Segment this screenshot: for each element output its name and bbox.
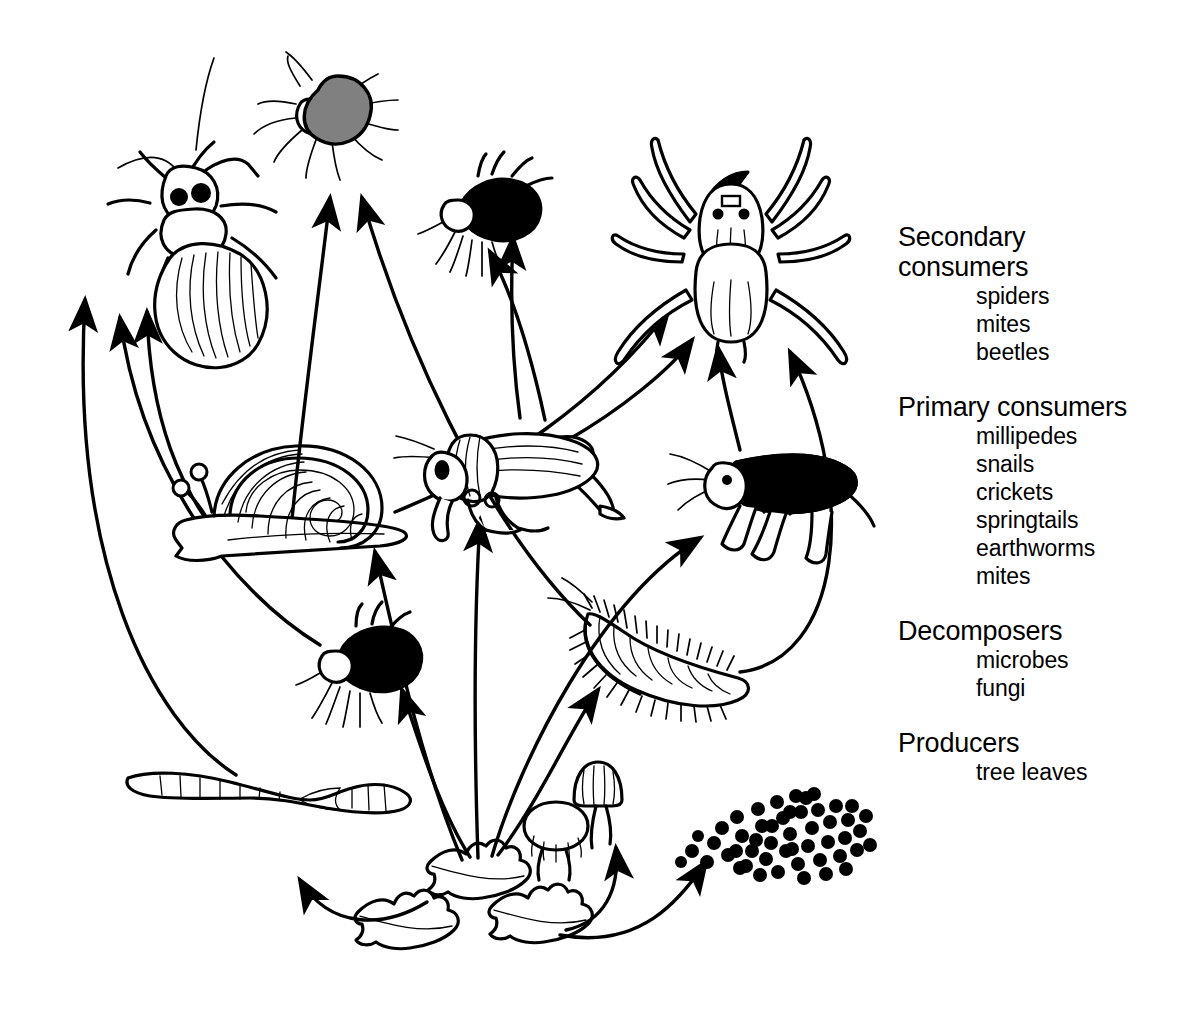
organism-snail: [173, 446, 407, 561]
legend-item: mites: [898, 562, 1178, 590]
arrow-springtail-to-spider: [718, 348, 740, 450]
legend-item: tree leaves: [898, 758, 1178, 786]
organism-fungi: [524, 762, 622, 880]
arrow-leaves-to-earthworm: [300, 880, 427, 920]
organism-microbes: [675, 787, 877, 885]
arrow-snail-to-tick-mite: [290, 198, 330, 540]
legend-heading-primary-consumers: Primary consumers: [898, 392, 1178, 422]
organism-mite-lower: [296, 602, 422, 727]
legend-heading-secondary-consumers: Secondary consumers: [898, 222, 1178, 282]
legend-item: earthworms: [898, 534, 1178, 562]
arrow-leaves-to-cricket: [475, 520, 480, 858]
legend-group-decomposers: Decomposers microbes fungi: [898, 616, 1178, 702]
organism-spider: [612, 138, 849, 363]
legend-item: snails: [898, 450, 1178, 478]
legend-group-secondary-consumers: Secondary consumers spiders mites beetle…: [898, 222, 1178, 366]
legend-item: crickets: [898, 478, 1178, 506]
organism-springtail: [668, 454, 874, 563]
organism-tick-mite-top: [254, 52, 398, 180]
arrow-cricket-to-mite-upper: [512, 238, 520, 418]
legend-item: microbes: [898, 646, 1178, 674]
legend: Secondary consumers spiders mites beetle…: [898, 222, 1178, 812]
organism-mite-upper: [418, 152, 552, 276]
organism-beetle: [108, 58, 276, 368]
organism-millipede: [548, 578, 749, 722]
organism-earthworm: [127, 773, 410, 813]
legend-group-producers: Producers tree leaves: [898, 728, 1178, 786]
legend-heading-decomposers: Decomposers: [898, 616, 1178, 646]
legend-item: beetles: [898, 338, 1178, 366]
legend-group-primary-consumers: Primary consumers millipedes snails cric…: [898, 392, 1178, 590]
legend-item: springtails: [898, 506, 1178, 534]
legend-item: fungi: [898, 674, 1178, 702]
organism-leaf-left: [355, 890, 458, 949]
legend-item: spiders: [898, 282, 1178, 310]
food-web-diagram: .ln{fill:none;stroke:#000;stroke-width:3…: [0, 0, 1191, 1018]
legend-item: mites: [898, 310, 1178, 338]
legend-item: millipedes: [898, 422, 1178, 450]
arrow-millipede-to-tick-mite: [362, 198, 590, 625]
legend-heading-producers: Producers: [898, 728, 1178, 758]
